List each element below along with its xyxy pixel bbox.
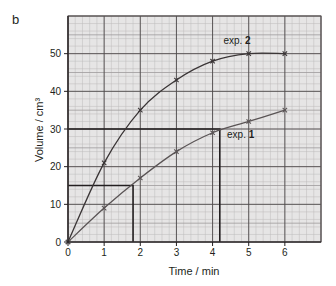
y-axis-label: Volume / cm³ xyxy=(33,98,45,163)
y-tick-label: 50 xyxy=(50,48,62,59)
x-tick-label: 2 xyxy=(138,247,144,258)
x-tick-label: 0 xyxy=(65,247,71,258)
y-tick-label: 20 xyxy=(50,161,62,172)
y-tick-label: 30 xyxy=(50,124,62,135)
x-tick-label: 3 xyxy=(174,247,180,258)
x-tick-label: 6 xyxy=(282,247,288,258)
y-tick-label: 40 xyxy=(50,86,62,97)
line-chart: 0123456 01020304050 exp. 2exp. 1 Time / … xyxy=(0,0,336,286)
y-axis-ticks: 01020304050 xyxy=(50,48,68,247)
x-tick-label: 4 xyxy=(210,247,216,258)
x-axis-ticks: 0123456 xyxy=(65,242,288,258)
series-label: exp. 1 xyxy=(227,129,255,140)
y-tick-label: 0 xyxy=(55,237,61,248)
x-tick-label: 5 xyxy=(246,247,252,258)
x-axis-label: Time / min xyxy=(169,265,220,277)
y-tick-label: 10 xyxy=(50,199,62,210)
series-label: exp. 2 xyxy=(223,35,251,46)
x-tick-label: 1 xyxy=(101,247,107,258)
